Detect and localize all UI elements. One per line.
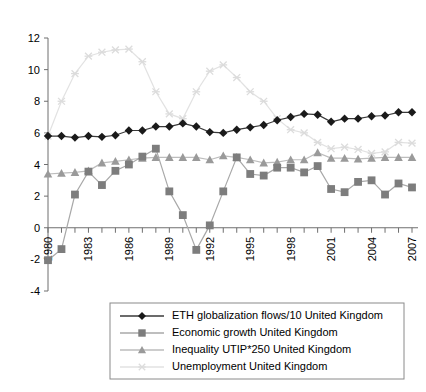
x-tick-label: 1983 <box>82 237 94 261</box>
x-tick-label: 1989 <box>163 237 175 261</box>
data-point-star <box>246 88 254 95</box>
data-point-star <box>85 53 93 60</box>
series-3 <box>44 46 416 157</box>
data-point-square <box>354 178 362 186</box>
data-point-diamond <box>165 122 173 130</box>
data-point-diamond <box>313 110 321 118</box>
data-point-diamond <box>327 118 335 126</box>
data-point-star <box>314 139 322 146</box>
data-point-star <box>165 111 173 118</box>
data-point-square <box>341 188 349 196</box>
data-point-triangle <box>313 148 322 156</box>
data-point-diamond <box>260 121 268 129</box>
data-point-diamond <box>98 133 106 141</box>
data-point-diamond <box>340 114 348 122</box>
data-point-diamond <box>179 119 187 127</box>
data-point-star <box>138 58 146 65</box>
data-point-square <box>300 169 308 177</box>
data-point-star <box>192 88 200 95</box>
data-point-diamond <box>408 108 416 116</box>
data-point-star <box>260 98 268 105</box>
y-tick-label: 8 <box>34 95 40 107</box>
chart-page: -4-2024681012198019831986198919921995199… <box>0 0 426 392</box>
legend-label: Unemployment United Kingdom <box>172 360 327 372</box>
axis-layer: -4-2024681012198019831986198919921995199… <box>28 32 418 297</box>
x-tick-label: 1998 <box>285 237 297 261</box>
data-point-star <box>300 129 308 136</box>
y-tick-label: 0 <box>34 222 40 234</box>
data-point-square <box>192 246 200 254</box>
data-point-star <box>71 70 79 77</box>
y-tick-label: 4 <box>34 159 40 171</box>
data-point-star <box>395 139 403 146</box>
series-0 <box>44 108 416 142</box>
data-point-diamond <box>273 116 281 124</box>
data-point-square <box>138 153 146 161</box>
data-point-diamond <box>367 112 375 120</box>
data-point-square <box>219 187 227 195</box>
data-point-square <box>260 172 268 180</box>
data-point-diamond <box>300 110 308 118</box>
data-point-star <box>327 145 335 152</box>
x-tick-label: 2004 <box>366 237 378 261</box>
data-point-diamond <box>84 132 92 140</box>
data-point-star <box>152 88 160 95</box>
data-point-diamond <box>152 122 160 130</box>
data-point-square <box>112 167 120 175</box>
y-tick-label: 10 <box>28 64 40 76</box>
data-point-diamond <box>219 129 227 137</box>
data-point-square <box>368 176 376 184</box>
data-point-diamond <box>71 133 79 141</box>
data-point-square <box>98 181 106 189</box>
data-point-diamond <box>57 132 65 140</box>
data-point-diamond <box>394 108 402 116</box>
y-tick-label: 6 <box>34 127 40 139</box>
data-point-square <box>273 164 281 172</box>
line-chart: -4-2024681012198019831986198919921995199… <box>0 0 426 392</box>
x-tick-label: 2007 <box>406 237 418 261</box>
data-point-square <box>233 153 241 161</box>
legend-label: Inequality UTIP*250 United Kingdom <box>172 343 351 355</box>
data-point-square <box>287 164 295 172</box>
data-point-star <box>125 46 133 53</box>
data-point-square <box>395 180 403 188</box>
y-tick-label: -4 <box>30 285 40 297</box>
data-point-square <box>314 162 322 170</box>
data-point-star <box>219 61 227 68</box>
data-point-diamond <box>354 114 362 122</box>
data-point-square <box>327 185 335 193</box>
x-tick-label: 1986 <box>123 237 135 261</box>
x-tick-label: 1995 <box>244 237 256 261</box>
data-point-star <box>408 140 416 147</box>
x-tick-label: 1992 <box>204 237 216 261</box>
data-point-star <box>111 46 119 53</box>
data-point-square <box>179 211 187 219</box>
legend-label: Economic growth United Kingdom <box>172 326 338 338</box>
data-point-square <box>381 191 389 199</box>
data-point-star <box>98 49 106 56</box>
data-point-diamond <box>192 122 200 130</box>
data-point-star <box>233 74 241 81</box>
y-tick-label: -2 <box>30 253 40 265</box>
series-layer <box>44 46 417 264</box>
data-point-diamond <box>286 113 294 121</box>
data-point-square <box>206 221 214 229</box>
data-point-star <box>206 68 214 75</box>
data-point-square <box>125 161 133 169</box>
data-point-star <box>287 126 295 133</box>
data-point-square <box>165 187 173 195</box>
data-point-diamond <box>381 111 389 119</box>
data-point-diamond <box>233 126 241 134</box>
data-point-diamond <box>125 126 133 134</box>
data-point-square <box>58 245 66 253</box>
data-point-diamond <box>206 128 214 136</box>
data-point-star <box>354 146 362 153</box>
data-point-square <box>85 168 93 176</box>
data-point-triangle <box>219 152 228 160</box>
data-point-square <box>408 184 416 192</box>
data-point-diamond <box>138 126 146 134</box>
x-tick-label: 2001 <box>325 237 337 261</box>
chart-legend: ETH globalization flows/10 United Kingdo… <box>110 303 404 379</box>
data-point-square <box>71 191 79 199</box>
data-point-diamond <box>111 131 119 139</box>
